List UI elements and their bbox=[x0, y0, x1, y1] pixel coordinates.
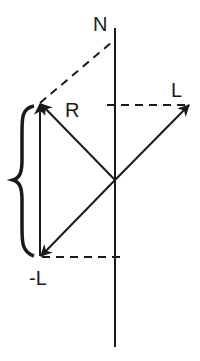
vector-label-neg-l: -L bbox=[29, 267, 47, 289]
vector-diagram: N R L -L bbox=[0, 0, 200, 361]
vector-l-arrow bbox=[115, 105, 189, 180]
vector-label-r: R bbox=[65, 99, 79, 121]
vector-neg-l-arrow bbox=[41, 180, 115, 256]
vector-label-l: L bbox=[171, 79, 182, 101]
dashed-line-r-to-n bbox=[40, 42, 112, 103]
curly-brace-icon bbox=[13, 106, 34, 256]
axis-label-n: N bbox=[93, 13, 107, 35]
